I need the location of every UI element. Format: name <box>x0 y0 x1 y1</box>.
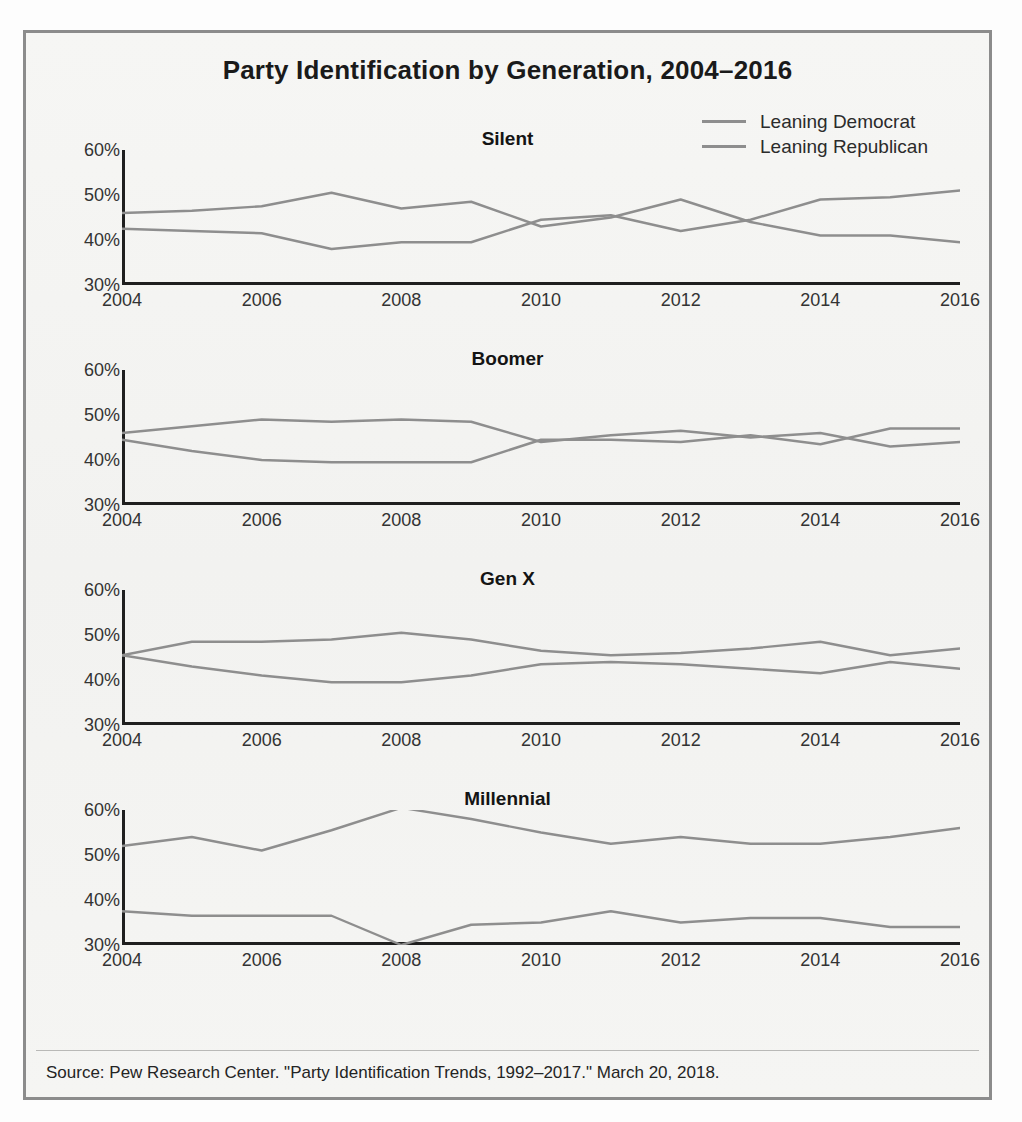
x-tick-label: 2010 <box>521 730 561 751</box>
series-lines-boomer <box>122 370 960 505</box>
plot-wrapper-millennial: 60%50%40%30%2004200620082010201220142016 <box>26 810 989 970</box>
y-tick-label: 40% <box>84 670 120 691</box>
x-tick-label: 2006 <box>242 950 282 971</box>
x-tick-label: 2014 <box>800 510 840 531</box>
x-tick-label: 2004 <box>102 730 142 751</box>
x-tick-label: 2006 <box>242 730 282 751</box>
x-tick-label: 2016 <box>940 730 980 751</box>
y-tick-label: 50% <box>84 625 120 646</box>
x-tick-label: 2016 <box>940 510 980 531</box>
x-tick-label: 2016 <box>940 290 980 311</box>
y-axis-labels-silent: 60%50%40%30% <box>58 150 120 285</box>
x-tick-label: 2012 <box>661 730 701 751</box>
legend-swatch-democrat <box>702 120 746 123</box>
plot-wrapper-gen-x: 60%50%40%30%2004200620082010201220142016 <box>26 590 989 750</box>
source-note: Source: Pew Research Center. "Party Iden… <box>46 1063 720 1083</box>
panel-title-gen-x: Gen X <box>26 568 989 590</box>
x-tick-label: 2004 <box>102 510 142 531</box>
x-axis-labels-gen-x: 2004200620082010201220142016 <box>122 730 960 756</box>
series-line-leaning-democrat <box>122 420 960 447</box>
plot-area-boomer <box>122 370 960 505</box>
y-tick-label: 50% <box>84 185 120 206</box>
x-tick-label: 2006 <box>242 510 282 531</box>
page-title: Party Identification by Generation, 2004… <box>26 55 989 86</box>
x-tick-label: 2012 <box>661 950 701 971</box>
source-divider <box>36 1050 979 1051</box>
x-tick-label: 2012 <box>661 510 701 531</box>
y-tick-label: 60% <box>84 140 120 161</box>
x-tick-label: 2004 <box>102 950 142 971</box>
x-tick-label: 2010 <box>521 950 561 971</box>
x-tick-label: 2010 <box>521 510 561 531</box>
y-tick-label: 50% <box>84 405 120 426</box>
x-tick-label: 2004 <box>102 290 142 311</box>
x-tick-label: 2016 <box>940 950 980 971</box>
x-tick-label: 2006 <box>242 290 282 311</box>
y-tick-label: 40% <box>84 230 120 251</box>
series-line-leaning-republican <box>122 911 960 945</box>
plot-area-millennial <box>122 810 960 945</box>
x-tick-label: 2008 <box>381 950 421 971</box>
x-tick-label: 2008 <box>381 290 421 311</box>
y-tick-label: 40% <box>84 890 120 911</box>
plot-wrapper-boomer: 60%50%40%30%2004200620082010201220142016 <box>26 370 989 530</box>
figure-page: Party Identification by Generation, 2004… <box>0 0 1022 1122</box>
x-tick-label: 2014 <box>800 290 840 311</box>
y-tick-label: 40% <box>84 450 120 471</box>
plot-area-gen-x <box>122 590 960 725</box>
y-tick-label: 60% <box>84 360 120 381</box>
y-tick-label: 60% <box>84 580 120 601</box>
series-line-leaning-democrat <box>122 810 960 851</box>
series-line-leaning-republican <box>122 655 960 682</box>
x-axis-labels-silent: 2004200620082010201220142016 <box>122 290 960 316</box>
plot-wrapper-silent: 60%50%40%30%2004200620082010201220142016 <box>26 150 989 310</box>
panel-title-millennial: Millennial <box>26 788 989 810</box>
y-axis-labels-boomer: 60%50%40%30% <box>58 370 120 505</box>
series-lines-millennial <box>122 810 960 945</box>
y-axis-labels-gen-x: 60%50%40%30% <box>58 590 120 725</box>
x-axis-labels-boomer: 2004200620082010201220142016 <box>122 510 960 536</box>
series-line-leaning-republican <box>122 191 960 250</box>
panel-title-silent: Silent <box>26 128 989 150</box>
x-tick-label: 2012 <box>661 290 701 311</box>
x-tick-label: 2008 <box>381 730 421 751</box>
x-axis-labels-millennial: 2004200620082010201220142016 <box>122 950 960 976</box>
series-lines-gen-x <box>122 590 960 725</box>
x-tick-label: 2008 <box>381 510 421 531</box>
x-tick-label: 2010 <box>521 290 561 311</box>
panel-title-boomer: Boomer <box>26 348 989 370</box>
series-line-leaning-democrat <box>122 633 960 656</box>
chart-figure-frame: Party Identification by Generation, 2004… <box>23 30 992 1100</box>
series-lines-silent <box>122 150 960 285</box>
series-line-leaning-republican <box>122 429 960 463</box>
y-tick-label: 60% <box>84 800 120 821</box>
plot-area-silent <box>122 150 960 285</box>
x-tick-label: 2014 <box>800 730 840 751</box>
x-tick-label: 2014 <box>800 950 840 971</box>
y-tick-label: 50% <box>84 845 120 866</box>
y-axis-labels-millennial: 60%50%40%30% <box>58 810 120 945</box>
